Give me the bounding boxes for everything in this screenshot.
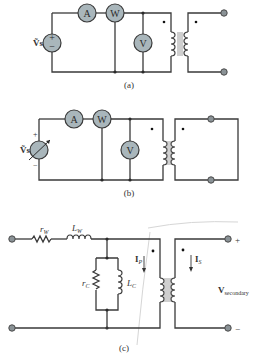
polarity-dot [163, 21, 166, 24]
panel-b-short-circuit-test: + − Ṽs A W V (b) [20, 110, 238, 198]
polarity-dot [152, 250, 155, 253]
core-resistor-rc [93, 270, 99, 289]
svg-text:−: − [33, 161, 38, 170]
output-terminal-plus [225, 236, 231, 242]
terminal [221, 69, 227, 75]
svg-text:−: − [235, 324, 240, 334]
svg-text:+: + [235, 235, 240, 245]
panel-c-equivalent-circuit: rW LW rC LC IP IS Vsecondary + − (c) [9, 222, 249, 353]
transformer-icon [163, 21, 198, 56]
caption-a: (a) [124, 80, 134, 90]
label-rc: rC [82, 278, 91, 289]
label-lc: LC [126, 278, 137, 289]
ideal-transformer-icon [152, 249, 185, 302]
svg-text:A: A [70, 114, 78, 125]
b-secondary-short [175, 119, 238, 180]
input-terminal [9, 236, 15, 242]
svg-text:W: W [110, 8, 120, 19]
label-v-secondary: Vsecondary [218, 285, 249, 296]
polarity-dot [182, 249, 185, 252]
terminal [208, 177, 214, 183]
panel-a-open-circuit-test: + − Ṽs A W V (a) [33, 4, 227, 90]
polarity-dot [195, 21, 198, 24]
polarity-dot [151, 128, 154, 131]
label-is: IS [195, 254, 202, 265]
caption-c: (c) [119, 343, 129, 353]
caption-b: (b) [124, 188, 135, 198]
core-inductor-lc [118, 270, 122, 294]
svg-text:W: W [97, 114, 107, 125]
svg-text:A: A [83, 8, 91, 19]
svg-text:+: + [33, 130, 38, 139]
input-terminal [9, 325, 15, 331]
polarity-dot [182, 128, 185, 131]
terminal [208, 116, 214, 122]
transformer-icon [151, 128, 185, 165]
svg-text:V: V [126, 145, 134, 156]
label-rw: rW [40, 224, 50, 235]
svg-text:−: − [49, 41, 55, 52]
series-inductor-lw [67, 235, 91, 239]
source-voltage-label: Ṽs [33, 38, 43, 48]
terminal [221, 10, 227, 16]
transformer-test-circuits: + − Ṽs A W V (a) [0, 0, 258, 360]
source-voltage-label: Ṽs [20, 145, 30, 155]
output-terminal-minus [225, 325, 231, 331]
svg-text:V: V [139, 38, 147, 49]
label-ip: IP [135, 254, 143, 265]
series-resistor-rw [32, 236, 51, 242]
label-lw: LW [71, 223, 83, 234]
